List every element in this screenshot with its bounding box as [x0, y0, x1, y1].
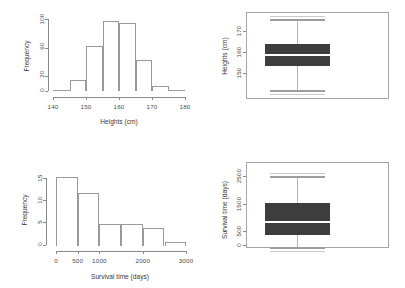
bar-160-165 — [119, 23, 136, 91]
heights-hist-xtick-mark-160 — [119, 97, 120, 100]
survival-hist-ytick-mark-10 — [43, 200, 46, 201]
bar-2500-3000 — [165, 242, 187, 246]
survival-hist-xtick-mark-1000 — [99, 251, 100, 254]
heights-hist-ytick-mark-60 — [45, 48, 48, 49]
bar-155-160 — [103, 21, 120, 91]
bar-140-145 — [53, 90, 70, 91]
heights-box-median — [265, 54, 330, 56]
heights-hist-ylabel: Frequency — [23, 40, 30, 71]
heights-hist-xtick-mark-150 — [86, 97, 87, 100]
bar-1500-2000 — [121, 224, 143, 246]
survival-box-median — [265, 221, 330, 223]
survival-hist-xtick-500: 500 — [72, 257, 83, 264]
survival-hist-ytick-mark-15 — [43, 178, 46, 179]
panel-heights-boxplot: Heights (cm) 150 160 170 — [205, 0, 405, 144]
survival-hist-ylabel: Frequency — [21, 194, 28, 225]
survival-box-whisker-cap-lower — [270, 247, 325, 249]
heights-hist-xtick-180: 180 — [180, 103, 191, 110]
bar-170-175 — [152, 86, 169, 91]
heights-box-fence-upper — [270, 16, 325, 17]
bar-2000-2500 — [143, 228, 165, 246]
bar-0-500 — [56, 177, 78, 246]
panel-survival-boxplot: Survival time (days) 0 500 1500 2500 — [205, 144, 405, 288]
heights-hist-xlabel: Heights (cm) — [100, 118, 137, 125]
heights-box-ytick-160: 160 — [235, 47, 242, 58]
heights-hist-ytick-mark-20 — [45, 76, 48, 77]
survival-hist-ytick-0: 0 — [36, 242, 43, 246]
survival-hist-xtick-mark-0 — [56, 251, 57, 254]
heights-box-ytick-170: 170 — [235, 26, 242, 37]
heights-hist-xtick-mark-180 — [185, 97, 186, 100]
survival-hist-xlabel: Survival time (days) — [91, 273, 149, 280]
heights-hist-xtick-150: 150 — [81, 103, 92, 110]
bar-500-1000 — [78, 193, 100, 246]
survival-box-ytick-1500: 1500 — [235, 197, 242, 212]
survival-box-fence-lower — [270, 251, 325, 252]
panel-survival-histogram: Frequency 0 5 10 15 0 500 1000 2000 3000… — [0, 144, 205, 288]
bar-1000-1500 — [99, 224, 121, 246]
heights-hist-xtick-mark-140 — [53, 97, 54, 100]
heights-hist-ytick-mark-0 — [45, 91, 48, 92]
heights-box-fence-lower — [270, 94, 325, 95]
survival-hist-xaxis — [56, 251, 186, 252]
survival-box-fence-upper — [270, 173, 325, 174]
survival-box-ytick-500: 500 — [235, 226, 242, 237]
heights-hist-ytick-60: 60 — [38, 42, 45, 49]
survival-hist-xtick-mark-3000 — [186, 251, 187, 254]
survival-hist-ytick-5: 5 — [36, 220, 43, 224]
survival-box-ylabel: Survival time (days) — [221, 181, 228, 239]
survival-hist-yaxis — [46, 178, 47, 245]
survival-box-iqr — [265, 203, 330, 235]
heights-box-ytick-150: 150 — [235, 68, 242, 79]
heights-hist-plot-area — [53, 19, 185, 91]
heights-hist-xtick-mark-170 — [152, 97, 153, 100]
survival-hist-xtick-mark-500 — [78, 251, 79, 254]
survival-box-ytick-0: 0 — [235, 243, 242, 247]
heights-hist-ytick-0: 0 — [38, 88, 45, 92]
survival-hist-ytick-mark-5 — [43, 222, 46, 223]
survival-box-ytick-2500: 2500 — [235, 169, 242, 184]
heights-box-frame — [246, 12, 389, 99]
survival-hist-ytick-10: 10 — [36, 196, 43, 203]
survival-box-frame — [246, 162, 389, 248]
survival-hist-xtick-mark-2000 — [143, 251, 144, 254]
bar-150-155 — [86, 46, 103, 91]
heights-hist-xtick-140: 140 — [48, 103, 59, 110]
figure-canvas: Frequency 0 20 60 100 140 150 — [0, 0, 405, 288]
survival-hist-xtick-1000: 1000 — [92, 257, 107, 264]
heights-hist-ytick-20: 20 — [38, 70, 45, 77]
survival-box-whisker-cap-upper — [270, 176, 325, 178]
survival-hist-xtick-0: 0 — [54, 257, 58, 264]
heights-hist-xtick-170: 170 — [147, 103, 158, 110]
heights-hist-ytick-100: 100 — [38, 14, 45, 25]
bar-175-180 — [169, 90, 186, 91]
panel-heights-histogram: Frequency 0 20 60 100 140 150 — [0, 0, 205, 144]
heights-box-whisker-cap-lower — [270, 90, 325, 92]
survival-hist-xtick-3000: 3000 — [179, 257, 194, 264]
bar-165-170 — [136, 60, 153, 91]
heights-box-whisker-cap-upper — [270, 19, 325, 21]
survival-hist-xtick-2000: 2000 — [136, 257, 151, 264]
survival-hist-plot-area — [56, 173, 186, 246]
heights-box-ylabel: Heights (cm) — [221, 37, 228, 74]
survival-hist-ytick-15: 15 — [36, 174, 43, 181]
heights-hist-ytick-mark-100 — [45, 19, 48, 20]
heights-hist-yaxis — [48, 19, 49, 91]
survival-hist-ytick-mark-0 — [43, 245, 46, 246]
heights-hist-xtick-160: 160 — [114, 103, 125, 110]
bar-145-150 — [70, 80, 87, 91]
